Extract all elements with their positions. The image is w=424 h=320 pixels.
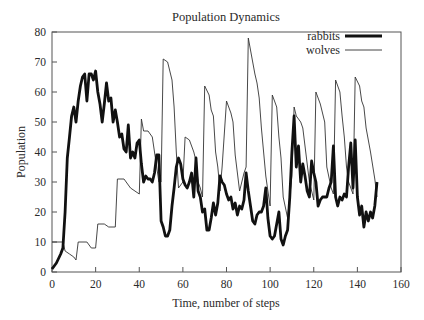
x-tick-label: 20 [90,278,102,290]
x-tick-label: 80 [221,278,233,290]
x-tick-label: 60 [177,278,189,290]
series-line-wolves [52,38,377,260]
series-line-rabbits [52,71,377,269]
chart-title: Population Dynamics [172,10,280,24]
x-tick-label: 120 [305,278,323,290]
y-tick-label: 20 [35,206,47,218]
x-tick-label: 160 [392,278,410,290]
legend-label-wolves: wolves [306,43,340,57]
x-axis-label: Time, number of steps [172,296,280,310]
y-tick-label: 0 [40,266,46,278]
x-tick-label: 140 [349,278,367,290]
y-tick-label: 70 [35,56,47,68]
legend: rabbits wolves [306,29,382,57]
y-tick-label: 60 [35,86,47,98]
y-tick-label: 30 [35,176,47,188]
x-axis: 020406080100120140160 [49,267,410,290]
y-tick-label: 40 [35,146,47,158]
y-tick-label: 80 [35,26,47,38]
y-axis-label: Population [14,126,28,178]
legend-label-rabbits: rabbits [307,29,340,43]
y-tick-label: 10 [35,236,47,248]
series-lines [52,38,377,269]
population-chart: Population Dynamics 01020304050607080 02… [0,0,424,320]
x-tick-label: 40 [134,278,146,290]
x-tick-label: 0 [49,278,55,290]
y-tick-label: 50 [35,116,47,128]
x-tick-label: 100 [262,278,280,290]
y-axis: 01020304050607080 [35,26,58,278]
